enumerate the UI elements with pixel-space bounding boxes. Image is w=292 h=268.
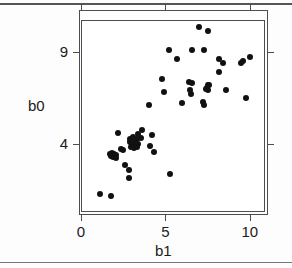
axis-spine-bottom: [79, 214, 268, 215]
y-tick-label: 4: [44, 136, 68, 151]
axis-spine-right: [267, 10, 268, 215]
page-rule-bottom: [0, 262, 292, 263]
plot-area: [81, 20, 265, 212]
x-tick-mark: [250, 214, 251, 221]
y-tick-mark-right: [267, 52, 274, 53]
y-tick-mark-right: [267, 144, 274, 145]
x-axis-title: b1: [155, 243, 172, 258]
x-tick-mark-top: [81, 4, 82, 11]
y-axis-title: b0: [28, 98, 45, 113]
scatter-plot-figure: 490510 b0 b1: [0, 0, 292, 268]
x-tick-label: 0: [61, 224, 101, 239]
x-tick-label: 10: [230, 224, 270, 239]
axis-spine-left: [79, 10, 80, 215]
x-tick-mark: [81, 214, 82, 221]
x-tick-mark-top: [250, 4, 251, 11]
page-rule-top: [0, 3, 292, 5]
x-tick-mark-top: [165, 4, 166, 11]
y-tick-mark: [73, 144, 80, 145]
axis-spine-top: [79, 10, 268, 11]
x-tick-mark: [165, 214, 166, 221]
y-tick-label: 9: [44, 44, 68, 59]
x-tick-label: 5: [145, 224, 185, 239]
y-tick-mark: [73, 52, 80, 53]
